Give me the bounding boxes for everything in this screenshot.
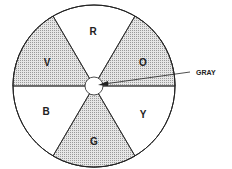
- center-gray-circle: [85, 77, 103, 95]
- gray-label: GRAY: [196, 69, 216, 76]
- segment-label-b: B: [42, 106, 49, 117]
- segment-label-v: V: [44, 57, 51, 68]
- color-wheel-diagram: R O Y G B V GRAY: [0, 0, 232, 169]
- segment-label-g: G: [90, 136, 98, 147]
- segment-label-r: R: [89, 26, 97, 37]
- segment-label-o: O: [139, 57, 147, 68]
- segment-label-y: Y: [140, 109, 147, 120]
